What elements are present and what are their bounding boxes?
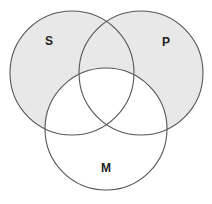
venn-svg: S P M (0, 0, 212, 204)
venn-diagram: S P M (0, 0, 212, 204)
label-m: M (101, 161, 111, 175)
label-s: S (45, 34, 53, 48)
label-p: P (162, 35, 170, 49)
